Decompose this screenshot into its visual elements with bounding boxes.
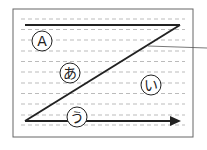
diagram-canvas: Aあいう bbox=[0, 0, 207, 150]
leader-line bbox=[148, 46, 207, 48]
label-u: う bbox=[67, 107, 87, 127]
label-A: A bbox=[32, 31, 52, 51]
label-text: う bbox=[70, 109, 84, 125]
label-text: あ bbox=[63, 65, 77, 81]
label-a: あ bbox=[60, 63, 80, 83]
label-text: い bbox=[144, 77, 158, 93]
label-i: い bbox=[141, 75, 161, 95]
label-text: A bbox=[37, 33, 47, 49]
labels: Aあいう bbox=[32, 31, 161, 127]
